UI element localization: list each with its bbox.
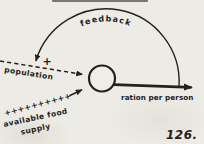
ration-arrow [114,85,192,88]
figure-number: 126. [166,128,198,142]
ration-label: ration per person [121,93,194,102]
feedback-label: feedback [79,14,133,28]
food-supply-arrow [70,90,82,96]
diagram-svg: feedback + population ++++++++++ availab… [0,0,204,144]
polarity-plus-sign: + [42,55,51,68]
valve-circle [89,66,115,92]
scan-artifact-top [52,0,148,2]
causal-loop-diagram: feedback + population ++++++++++ availab… [0,0,204,144]
population-label: population [4,65,54,82]
